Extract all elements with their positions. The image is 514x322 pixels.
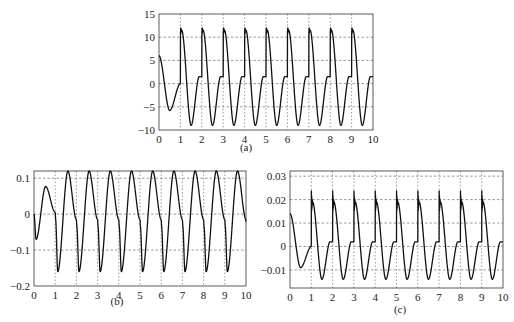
caption-a: (a) [226, 141, 266, 153]
caption-c: (c) [380, 303, 420, 315]
y-tick-label: −0.1 [10, 244, 30, 256]
y-tick-label: −0.01 [261, 264, 286, 276]
x-tick-label: 1 [52, 289, 58, 301]
x-tick-label: 6 [415, 291, 421, 303]
x-tick-label: 1 [309, 291, 315, 303]
x-tick-label: 10 [498, 291, 510, 303]
x-tick-label: 0 [31, 289, 37, 301]
x-tick-label: 5 [137, 289, 143, 301]
y-tick-label: 10 [144, 31, 156, 43]
waveform-line [159, 28, 373, 125]
x-tick-label: 0 [287, 291, 293, 303]
y-tick-label: 0 [281, 240, 287, 252]
x-tick-label: 2 [199, 133, 205, 145]
x-tick-label: 10 [241, 289, 253, 301]
x-tick-label: 1 [178, 133, 184, 145]
x-tick-label: 3 [351, 291, 357, 303]
y-tick-label: 15 [144, 8, 156, 20]
x-tick-label: 0 [156, 133, 162, 145]
figure: 012345678910−10−5051015012345678910−0.2−… [0, 0, 514, 322]
y-tick-label: −0.2 [10, 280, 30, 292]
y-tick-label: 0 [25, 208, 31, 220]
y-tick-label: −10 [138, 124, 156, 136]
y-tick-label: 0.03 [267, 170, 287, 182]
y-tick-label: 5 [150, 54, 156, 66]
x-tick-label: 2 [74, 289, 80, 301]
x-tick-label: 2 [330, 291, 336, 303]
x-tick-label: 9 [479, 291, 485, 303]
figure-canvas: 012345678910−10−5051015012345678910−0.2−… [0, 0, 514, 322]
chart-a: 012345678910−10−5051015 [138, 8, 379, 145]
y-tick-label: 0.01 [267, 217, 286, 229]
chart-c: 012345678910−0.0100.010.020.03 [261, 170, 509, 303]
x-tick-label: 8 [201, 289, 207, 301]
x-tick-label: 9 [222, 289, 228, 301]
caption-b: (b) [97, 295, 137, 307]
x-tick-label: 4 [372, 291, 378, 303]
x-tick-label: 10 [368, 133, 380, 145]
chart-b: 012345678910−0.2−0.100.1 [10, 171, 252, 301]
y-tick-label: 0.02 [267, 194, 286, 206]
x-tick-label: 5 [394, 291, 400, 303]
x-tick-label: 9 [349, 133, 355, 145]
x-tick-label: 6 [285, 133, 291, 145]
x-tick-label: 7 [180, 289, 186, 301]
x-tick-label: 6 [158, 289, 164, 301]
y-tick-label: −5 [143, 101, 155, 113]
y-tick-label: 0 [150, 78, 156, 90]
x-tick-label: 8 [458, 291, 464, 303]
x-tick-label: 8 [327, 133, 333, 145]
y-tick-label: 0.1 [16, 172, 30, 184]
x-tick-label: 7 [306, 133, 312, 145]
x-tick-label: 7 [436, 291, 442, 303]
